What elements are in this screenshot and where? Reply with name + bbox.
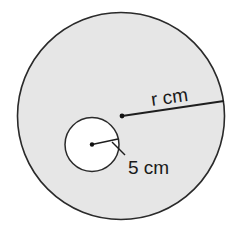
inner-center-dot — [90, 142, 94, 146]
outer-center-dot — [120, 114, 125, 119]
circle-diagram: r cm 5 cm — [0, 0, 230, 226]
inner-radius-label: 5 cm — [128, 157, 169, 178]
diagram-canvas: r cm 5 cm — [0, 0, 230, 226]
